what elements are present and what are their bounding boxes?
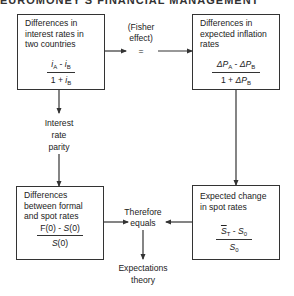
lead: 1 +	[51, 75, 66, 85]
title-line: Differences in	[200, 18, 267, 29]
expectations-theory-label: Expectations theory	[108, 262, 178, 286]
title-line: Differences in	[25, 18, 84, 29]
sub: B	[251, 64, 255, 70]
numerator: ST - S0	[189, 226, 279, 237]
box-title: Differences between formal and spot rate…	[24, 190, 83, 222]
title-line: and spot rates	[24, 211, 83, 222]
term: (0)	[69, 223, 80, 233]
formula-fraction: ST - S0 S0	[189, 226, 279, 253]
title-line: rates	[200, 39, 267, 50]
label-line: Interest	[34, 117, 84, 129]
sub: 0	[235, 247, 238, 253]
box-title: Differences in expected inflation rates	[200, 18, 267, 50]
title-line: Expected change	[200, 191, 266, 202]
operator: -	[230, 226, 238, 236]
term: F(0) -	[40, 223, 63, 233]
numerator: ΔPA - ΔPB	[193, 59, 279, 70]
formula-fraction: F(0) - S(0) S(0)	[17, 223, 103, 248]
denominator: S(0)	[17, 238, 103, 248]
label-line: equals	[116, 218, 170, 229]
box-expected-spot-change: Expected change in spot rates ST - S0 S0	[192, 185, 280, 260]
label-line: theory	[108, 274, 178, 286]
label-line: Therefore	[116, 207, 170, 218]
label-line: parity	[34, 141, 84, 153]
therefore-equals-label: Therefore equals	[116, 207, 170, 228]
title-line: between formal	[24, 201, 83, 212]
sub: B	[67, 80, 71, 86]
label-line: effect)	[118, 33, 164, 44]
term: (0)	[58, 238, 69, 248]
var: ΔP	[236, 75, 248, 85]
box-forward-spot-differences: Differences between formal and spot rate…	[16, 186, 104, 260]
operator: -	[232, 59, 240, 69]
fraction-bar	[37, 235, 83, 236]
sub: 0	[244, 231, 247, 237]
formula-fraction: ΔPA - ΔPB 1 + ΔPB	[193, 59, 279, 86]
fraction-bar	[216, 239, 252, 240]
sub: B	[67, 64, 71, 70]
box-title: Differences in interest rates in two cou…	[25, 18, 84, 50]
title-line: two countries	[25, 39, 84, 50]
denominator: S0	[189, 242, 279, 253]
label-line: (Fisher	[118, 22, 164, 33]
label-line: Expectations	[108, 262, 178, 274]
box-title: Expected change in spot rates	[200, 191, 266, 212]
title-line: interest rates in	[25, 29, 84, 40]
denominator: 1 + ΔPB	[193, 75, 279, 86]
numerator: F(0) - S(0)	[17, 223, 103, 233]
operator: -	[57, 59, 65, 69]
fisher-effect-label: (Fisher effect) =	[118, 22, 164, 57]
box-inflation-rate-differences: Differences in expected inflation rates …	[192, 14, 280, 90]
label-line: rate	[34, 129, 84, 141]
interest-rate-parity-label: Interest rate parity	[34, 117, 84, 153]
sub: B	[247, 80, 251, 86]
box-interest-rate-differences: Differences in interest rates in two cou…	[17, 14, 105, 90]
title-line: expected inflation	[200, 29, 267, 40]
lead: 1 +	[221, 75, 236, 85]
var: ΔP	[217, 59, 229, 69]
fraction-bar	[47, 72, 75, 73]
title-line: Differences	[24, 190, 83, 201]
title-line: in spot rates	[200, 202, 266, 213]
formula-fraction: iA - iB 1 + iB	[18, 59, 104, 86]
equals-sign: =	[118, 46, 164, 57]
denominator: 1 + iB	[18, 75, 104, 86]
var: ΔP	[240, 59, 252, 69]
fraction-bar	[212, 72, 260, 73]
numerator: iA - iB	[18, 59, 104, 70]
